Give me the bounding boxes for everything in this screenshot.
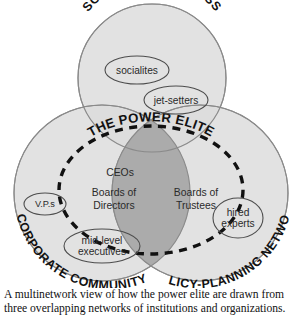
- figure-caption-line-1: A multinetwork view of how the power eli…: [4, 288, 298, 302]
- node-mid-level-executives-line2: executives: [78, 246, 126, 257]
- node-vps-label: V.P.s: [35, 199, 55, 209]
- figure-caption: A multinetwork view of how the power eli…: [0, 288, 302, 316]
- label-boards-of-directors-line1: Boards of: [92, 187, 137, 198]
- label-boards-of-trustees-line1: Boards of: [174, 187, 219, 198]
- figure-caption-line-2: three overlapping networks of institutio…: [4, 302, 298, 316]
- node-hired-experts-line2: experts: [221, 218, 254, 229]
- node-mid-level-executives-line1: mid-level: [82, 235, 123, 246]
- venn-diagram-svg: SOCIAL UPPER CLASS CORPORATE COMMUNITY P…: [0, 0, 302, 288]
- node-socialites-label: socialites: [116, 65, 158, 76]
- label-boards-of-directors-line2: Directors: [93, 200, 135, 211]
- node-jet-setters-label: jet-setters: [153, 95, 199, 106]
- label-boards-of-trustees-line2: Trustees: [176, 200, 216, 211]
- node-hired-experts-line1: hired: [227, 207, 250, 218]
- label-ceos: CEOs: [106, 167, 134, 178]
- power-elite-venn-figure: SOCIAL UPPER CLASS CORPORATE COMMUNITY P…: [0, 0, 302, 316]
